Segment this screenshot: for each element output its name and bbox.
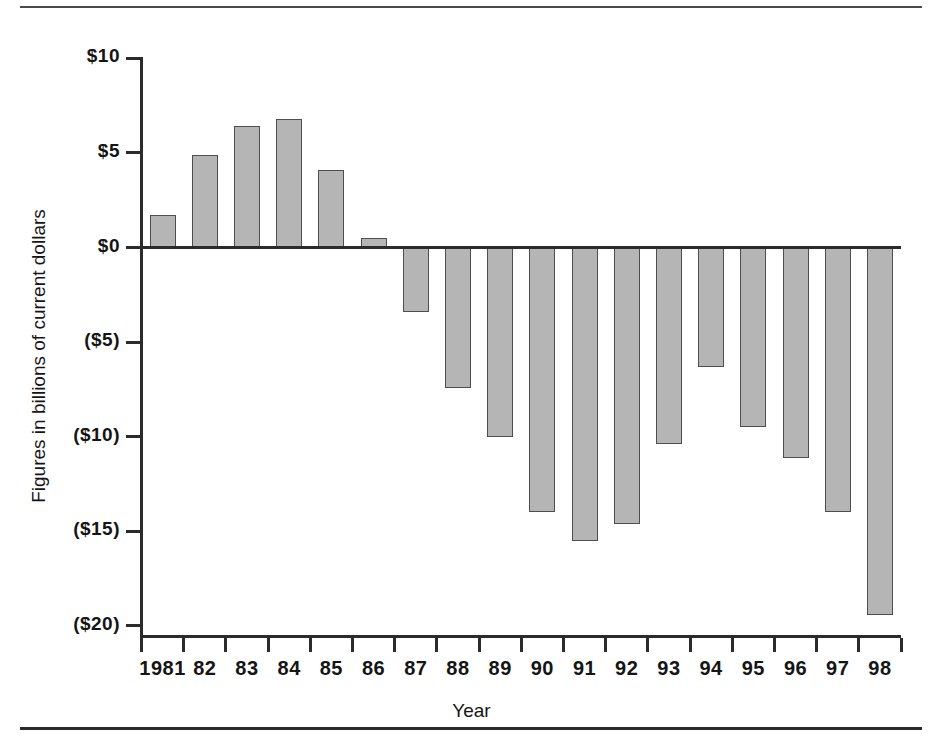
x-axis-title: Year xyxy=(0,700,943,722)
y-tick-mark xyxy=(126,341,143,344)
x-tick-mark xyxy=(140,638,143,652)
x-tick-mark xyxy=(900,638,903,652)
bar-93 xyxy=(656,248,682,445)
y-tick-label: ($5) xyxy=(84,329,120,351)
x-tick-mark xyxy=(562,638,565,652)
bar-85 xyxy=(318,170,344,248)
y-tick-label: $10 xyxy=(87,45,120,67)
y-tick-mark xyxy=(126,435,143,438)
bar-98 xyxy=(867,248,893,615)
bar-chart-plot: $10$5$0($5)($10)($15)($20) 1981828384858… xyxy=(0,0,943,756)
y-axis-line xyxy=(140,59,143,637)
x-tick-mark xyxy=(773,638,776,652)
y-tick-mark xyxy=(126,57,143,60)
x-tick-mark xyxy=(604,638,607,652)
x-tick-mark xyxy=(478,638,481,652)
x-tick-mark xyxy=(520,638,523,652)
bar-1981 xyxy=(150,215,176,247)
x-tick-mark xyxy=(857,638,860,652)
y-tick-label: ($10) xyxy=(73,424,120,446)
x-tick-mark xyxy=(689,638,692,652)
x-tick-mark xyxy=(646,638,649,652)
bar-88 xyxy=(445,248,471,388)
y-tick-label: ($20) xyxy=(73,613,120,635)
bar-83 xyxy=(234,126,260,247)
bar-97 xyxy=(825,248,851,513)
x-tick-mark xyxy=(224,638,227,652)
bar-90 xyxy=(529,248,555,513)
x-tick-mark xyxy=(731,638,734,652)
bar-82 xyxy=(192,155,218,248)
bar-92 xyxy=(614,248,640,524)
bar-87 xyxy=(403,248,429,312)
x-tick-mark xyxy=(351,638,354,652)
x-tick-label: 98 xyxy=(840,657,920,680)
figure-container: $10$5$0($5)($10)($15)($20) 1981828384858… xyxy=(0,0,943,756)
x-tick-mark xyxy=(267,638,270,652)
x-tick-mark xyxy=(182,638,185,652)
y-tick-mark xyxy=(126,530,143,533)
x-tick-mark xyxy=(435,638,438,652)
y-tick-mark xyxy=(126,624,143,627)
bar-84 xyxy=(276,119,302,248)
y-tick-label: $0 xyxy=(98,235,120,257)
y-tick-label: $5 xyxy=(98,140,120,162)
y-axis-title: Figures in billions of current dollars xyxy=(28,121,50,591)
bar-95 xyxy=(740,248,766,428)
bar-89 xyxy=(487,248,513,437)
x-tick-mark xyxy=(309,638,312,652)
y-tick-mark xyxy=(126,151,143,154)
y-tick-label: ($15) xyxy=(73,518,120,540)
zero-baseline xyxy=(140,246,901,249)
x-tick-mark xyxy=(815,638,818,652)
bar-94 xyxy=(698,248,724,367)
bar-91 xyxy=(572,248,598,541)
x-tick-mark xyxy=(393,638,396,652)
bar-96 xyxy=(783,248,809,458)
